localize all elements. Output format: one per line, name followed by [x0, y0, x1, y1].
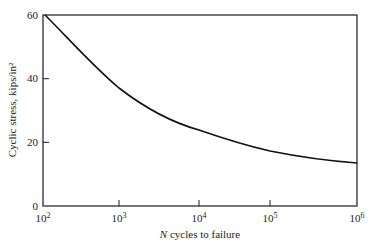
plot-frame	[43, 15, 357, 206]
y-tick-label: 0	[33, 200, 39, 212]
x-tick-label: 105	[263, 211, 278, 224]
sn-chart: 0 20 40 60 102 103 104 105 106 N cycles …	[0, 0, 378, 248]
y-tick-label: 60	[27, 9, 39, 21]
x-axis: 102 103 104 105 106	[36, 200, 365, 224]
x-tick-label: 102	[36, 211, 51, 224]
x-tick-label: 103	[112, 211, 127, 224]
x-tick-label: 104	[192, 211, 207, 224]
y-tick-label: 40	[27, 72, 39, 84]
y-tick-label: 20	[27, 136, 39, 148]
y-axis: 0 20 40 60	[27, 9, 49, 212]
sn-curve	[45, 15, 357, 163]
x-tick-label: 106	[350, 211, 365, 224]
y-axis-title: Cyclic stress, kips/in²	[6, 62, 18, 157]
x-axis-title: N cycles to failure	[159, 228, 240, 240]
